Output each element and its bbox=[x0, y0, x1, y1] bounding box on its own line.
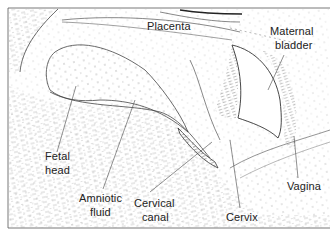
label-vagina: Vagina bbox=[287, 180, 321, 192]
ultrasound-diagram: Placenta Maternal bladder Fetal head Amn… bbox=[0, 0, 330, 235]
label-cervix: Cervix bbox=[226, 211, 258, 223]
label-amniotic-fluid-line1: Amniotic bbox=[79, 192, 122, 204]
label-fetal-head-line2: head bbox=[45, 164, 70, 176]
label-placenta: Placenta bbox=[147, 20, 191, 32]
label-maternal-bladder-line1: Maternal bbox=[270, 25, 314, 37]
label-fetal-head-line1: Fetal bbox=[45, 150, 70, 162]
label-cervical-canal-line1: Cervical bbox=[134, 197, 175, 209]
label-maternal-bladder-line2: bladder bbox=[275, 39, 312, 51]
label-cervical-canal-line2: canal bbox=[142, 211, 169, 223]
label-amniotic-fluid-line2: fluid bbox=[90, 206, 111, 218]
